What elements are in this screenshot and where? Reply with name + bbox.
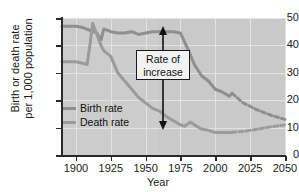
- legend: Birth rate Death rate: [63, 101, 129, 129]
- y-axis-tick: [56, 100, 61, 102]
- y-axis-title: Birth or death rate per 1,000 population: [9, 0, 34, 139]
- y-axis-tick: [56, 18, 61, 20]
- y-axis-tick: [56, 155, 61, 157]
- y-axis-line: [61, 17, 63, 156]
- legend-label-death-rate: Death rate: [80, 115, 129, 129]
- x-axis-tick-label: 2050: [265, 162, 299, 174]
- y-axis-tick: [56, 45, 61, 47]
- y-axis-title-line2: per 1,000 population: [21, 18, 33, 118]
- annotation-line2: increase: [137, 66, 189, 79]
- x-axis-tick: [111, 156, 113, 161]
- x-axis-title: Year: [118, 176, 198, 188]
- y-axis-tick-label: 20: [245, 94, 299, 105]
- legend-swatch-death-rate: [63, 121, 76, 124]
- y-axis-tick-label: 50: [245, 12, 299, 23]
- y-axis-tick-label: 10: [245, 122, 299, 133]
- x-axis-tick: [215, 156, 217, 161]
- x-axis-tick: [76, 156, 78, 161]
- legend-swatch-birth-rate: [63, 107, 76, 110]
- y-axis-title-line1: Birth or death rate: [9, 24, 21, 112]
- y-axis-tick-label: 40: [245, 39, 299, 50]
- legend-item-death-rate: Death rate: [63, 115, 129, 129]
- y-axis-tick: [56, 128, 61, 130]
- x-axis-tick: [146, 156, 148, 161]
- rate-of-increase-label: Rate of increase: [136, 50, 190, 80]
- y-axis-tick: [56, 73, 61, 75]
- legend-label-birth-rate: Birth rate: [80, 101, 123, 115]
- y-axis-tick-label: 0: [245, 149, 299, 160]
- x-axis-tick: [285, 156, 287, 161]
- annotation-line1: Rate of: [137, 53, 189, 66]
- chart-figure: 010203040501900192519501975200020252050 …: [0, 0, 299, 192]
- legend-item-birth-rate: Birth rate: [63, 101, 129, 115]
- y-axis-tick-label: 30: [245, 67, 299, 78]
- x-axis-tick: [250, 156, 252, 161]
- x-axis-tick: [180, 156, 182, 161]
